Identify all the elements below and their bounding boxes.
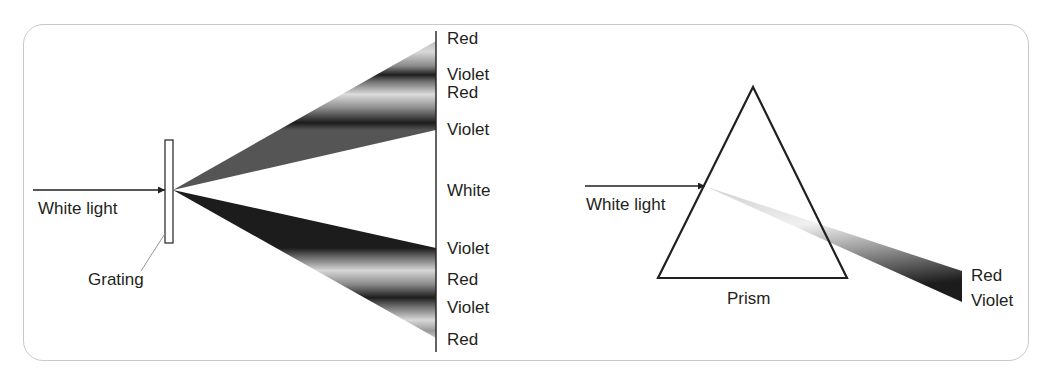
grating — [165, 140, 173, 243]
screen-label-violet-2: Violet — [447, 121, 489, 138]
prism-output-label-violet: Violet — [971, 292, 1013, 309]
screen-label-violet-1: Violet — [447, 66, 489, 83]
screen-label-red-3: Red — [447, 271, 478, 288]
prism-dispersed-beam — [707, 187, 962, 302]
grating-white-light-label: White light — [38, 200, 117, 217]
prism-white-light-label: White light — [586, 196, 665, 213]
screen-label-violet-3: Violet — [447, 240, 489, 257]
screen-label-white: White — [447, 182, 490, 199]
prism-output-label-red: Red — [971, 267, 1002, 284]
diagram-artwork — [0, 0, 1048, 373]
grating-leader-line — [141, 232, 166, 271]
screen-label-red-1: Red — [447, 30, 478, 47]
upper-spectrum-fan — [173, 41, 436, 190]
screen-label-violet-4: Violet — [447, 299, 489, 316]
screen-label-red-4: Red — [447, 331, 478, 348]
grating-label: Grating — [88, 271, 144, 288]
prism — [658, 87, 847, 278]
screen-label-red-2: Red — [447, 84, 478, 101]
prism-label: Prism — [727, 290, 770, 307]
lower-spectrum-fan — [173, 190, 436, 338]
